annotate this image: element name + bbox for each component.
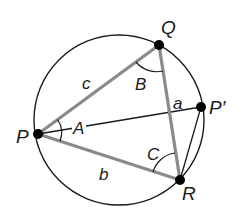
- label-r: R: [182, 183, 196, 204]
- label-angle-a: A: [72, 119, 84, 138]
- label-q: Q: [161, 17, 176, 38]
- circumscribed-triangle-diagram: P Q R P′ a b c A B C: [0, 0, 238, 216]
- segment-pprime-r: [180, 107, 201, 180]
- label-angle-b: B: [135, 75, 146, 94]
- point-p: [33, 129, 43, 139]
- label-side-a: a: [173, 94, 182, 113]
- label-p: P: [16, 126, 29, 147]
- label-side-b: b: [99, 165, 108, 184]
- label-angle-c: C: [147, 145, 160, 164]
- angle-arc-b: [136, 62, 163, 72]
- point-pprime: [196, 102, 206, 112]
- label-pprime: P′: [209, 97, 227, 118]
- point-q: [154, 40, 164, 50]
- label-side-c: c: [82, 74, 91, 93]
